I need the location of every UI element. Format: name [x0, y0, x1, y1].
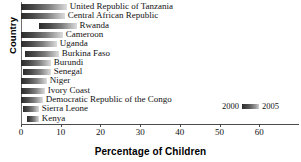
x-axis-ticks: 0102030405060	[21, 124, 299, 140]
bar-label: Central African Republic	[68, 11, 158, 20]
bar-label: Kenya	[42, 114, 66, 123]
bar-uganda	[21, 41, 57, 47]
bar-ivory-coast	[21, 88, 45, 94]
bar-niger	[21, 78, 47, 84]
bar-rwanda	[39, 23, 77, 29]
x-tick-label: 0	[19, 127, 24, 138]
x-tick-label: 40	[175, 127, 184, 138]
legend-gradient-swatch	[242, 104, 259, 109]
bar-label: Uganda	[60, 39, 88, 48]
chart-legend: 2000 2005	[222, 101, 279, 111]
x-tick-label: 60	[255, 127, 264, 138]
bar-chart: Country United Republic of TanzaniaCentr…	[0, 0, 301, 162]
x-tick-label: 30	[136, 127, 145, 138]
y-axis-title: Country	[7, 6, 18, 66]
bar-burkina-faso	[25, 51, 59, 57]
x-tick-label: 20	[96, 127, 105, 138]
bar-cameroon	[21, 32, 63, 38]
bar-senegal	[23, 69, 51, 75]
legend-label-2000: 2000	[222, 101, 239, 111]
bar-sierra-leone	[23, 106, 39, 112]
bar-kenya	[27, 116, 39, 122]
legend-label-2005: 2005	[262, 101, 279, 111]
x-tick-label: 50	[215, 127, 224, 138]
bar-label: Sierra Leone	[42, 104, 88, 113]
bar-democratic-republic-of-the-congo	[21, 97, 43, 103]
bar-burundi	[21, 60, 51, 66]
x-tick-label: 10	[56, 127, 65, 138]
bar-united-republic-of-tanzania	[21, 4, 67, 10]
x-axis-title: Percentage of Children	[0, 146, 301, 157]
bar-central-african-republic	[21, 13, 65, 19]
